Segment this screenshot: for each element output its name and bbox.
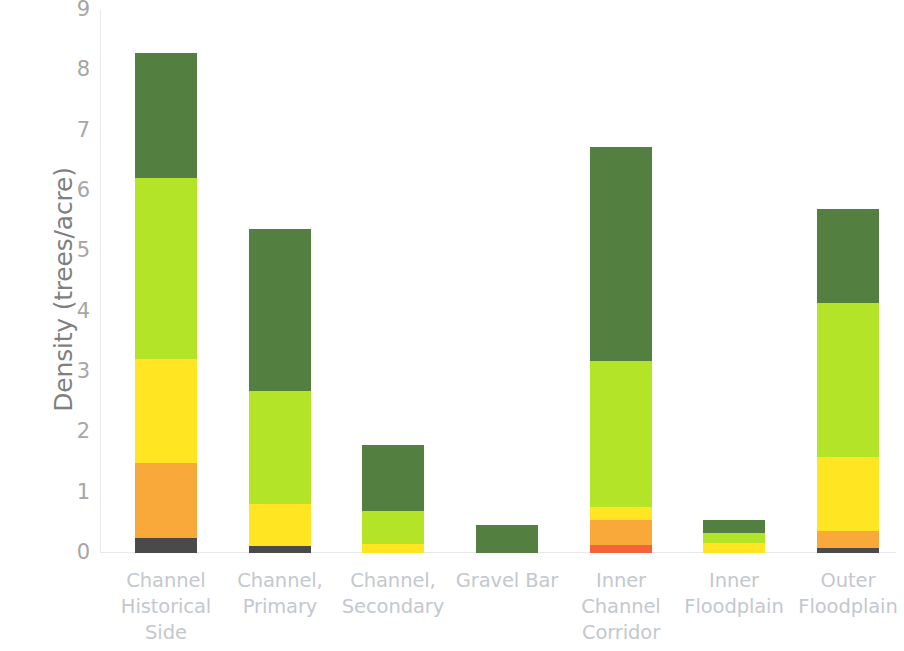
y-tick-1: 1 (50, 482, 90, 503)
bar-segment-dark-gray-class[interactable] (135, 538, 197, 553)
bar-group[interactable] (249, 10, 311, 553)
x-tick-label: Inner Channel Corridor (564, 568, 678, 646)
bar-segment-dark-green-class[interactable] (817, 209, 879, 303)
stacked-bar-chart: Density (trees/acre) 9876543210 Channel … (0, 0, 904, 651)
bar-segment-yellow-class[interactable] (703, 543, 765, 553)
bar-segment-yellow-green-class[interactable] (362, 511, 424, 544)
y-tick-2: 2 (50, 421, 90, 442)
bar-segment-orange-class[interactable] (590, 520, 652, 545)
bar-segment-dark-gray-class[interactable] (249, 546, 311, 553)
bar-segment-yellow-class[interactable] (249, 504, 311, 546)
bar-segment-yellow-class[interactable] (362, 544, 424, 553)
bar-group[interactable] (135, 10, 197, 553)
x-axis-tick-labels: Channel Historical SideChannel, PrimaryC… (100, 568, 896, 651)
bar-stack (476, 525, 538, 553)
bar-group[interactable] (590, 10, 652, 553)
bar-stack (703, 520, 765, 553)
plot-area (100, 10, 896, 553)
x-tick-label: Channel, Secondary (336, 568, 450, 620)
bar-segment-orange-class[interactable] (817, 531, 879, 548)
y-tick-0: 0 (50, 542, 90, 563)
bar-group[interactable] (476, 10, 538, 553)
bar-segment-dark-green-class[interactable] (249, 229, 311, 391)
x-tick-label: Gravel Bar (450, 568, 564, 594)
bar-stack (249, 229, 311, 553)
y-axis-line (100, 10, 101, 553)
x-tick-label: Inner Floodplain (677, 568, 791, 620)
y-tick-4: 4 (50, 301, 90, 322)
bar-segment-dark-green-class[interactable] (703, 520, 765, 533)
bar-segment-dark-green-class[interactable] (590, 147, 652, 361)
bar-segment-orange-class[interactable] (135, 463, 197, 538)
bar-segment-dark-gray-class[interactable] (817, 548, 879, 553)
y-tick-7: 7 (50, 120, 90, 141)
y-tick-5: 5 (50, 240, 90, 261)
bar-segment-yellow-class[interactable] (135, 359, 197, 463)
x-tick-label: Channel, Primary (223, 568, 337, 620)
x-tick-label: Channel Historical Side (109, 568, 223, 646)
bar-segment-yellow-green-class[interactable] (590, 361, 652, 507)
bar-segment-yellow-class[interactable] (590, 507, 652, 520)
bar-segment-dark-green-class[interactable] (362, 445, 424, 511)
y-axis-tick-labels: 9876543210 (48, 0, 90, 651)
bar-segment-yellow-green-class[interactable] (703, 533, 765, 543)
bar-segment-dark-green-class[interactable] (476, 525, 538, 553)
y-tick-3: 3 (50, 361, 90, 382)
bar-segment-yellow-green-class[interactable] (135, 178, 197, 359)
bar-stack (817, 209, 879, 553)
bar-stack (362, 445, 424, 553)
y-tick-9: 9 (50, 0, 90, 20)
bar-group[interactable] (703, 10, 765, 553)
bar-segment-yellow-class[interactable] (817, 457, 879, 531)
x-tick-label: Outer Floodplain (791, 568, 904, 620)
bar-group[interactable] (817, 10, 879, 553)
bar-stack (135, 53, 197, 553)
bar-stack (590, 147, 652, 553)
bar-segment-yellow-green-class[interactable] (817, 303, 879, 457)
bar-segment-dark-green-class[interactable] (135, 53, 197, 178)
y-tick-8: 8 (50, 59, 90, 80)
bar-segment-red-class[interactable] (590, 545, 652, 553)
bar-group[interactable] (362, 10, 424, 553)
y-tick-6: 6 (50, 180, 90, 201)
bar-segment-yellow-green-class[interactable] (249, 391, 311, 503)
